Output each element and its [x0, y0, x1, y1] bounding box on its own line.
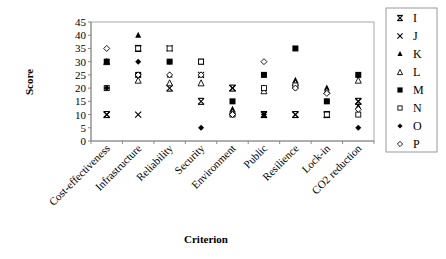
- data-points: [104, 32, 362, 131]
- square-filled-marker-icon: [230, 98, 236, 104]
- y-axis: 051015202530354045: [75, 16, 91, 147]
- y-tick-label: 0: [81, 135, 87, 147]
- y-axis-title: Score: [23, 69, 35, 95]
- diamond-open-marker-icon: [261, 59, 267, 65]
- y-tick-label: 45: [75, 16, 87, 28]
- legend: IJKLMNOP: [386, 8, 437, 152]
- square-open-marker-icon: [324, 112, 329, 117]
- square-open-marker-icon: [136, 46, 141, 51]
- y-tick-label: 25: [75, 69, 87, 81]
- legend-label: L: [413, 65, 420, 79]
- legend-label: M: [413, 83, 424, 97]
- x-marker-icon: [292, 112, 298, 118]
- legend-label: I: [413, 11, 417, 25]
- legend-label: P: [413, 137, 420, 151]
- triangle-filled-marker-icon: [135, 32, 141, 38]
- y-tick-label: 10: [75, 109, 87, 121]
- triangle-open-marker-icon: [198, 80, 204, 86]
- square-filled-marker-icon: [397, 87, 402, 92]
- x-axis-title: Criterion: [184, 233, 228, 245]
- diamond-open-marker-icon: [355, 106, 361, 112]
- y-tick-label: 35: [75, 42, 87, 54]
- x-tick-label: Public: [241, 142, 269, 170]
- x-marker-icon: [104, 112, 110, 118]
- diamond-open-marker-icon: [104, 45, 110, 51]
- y-tick-label: 15: [75, 95, 87, 107]
- square-open-marker-icon: [167, 46, 172, 51]
- y-tick-label: 30: [75, 56, 87, 68]
- square-filled-marker-icon: [261, 72, 267, 78]
- triangle-open-marker-icon: [355, 77, 361, 83]
- y-tick-label: 40: [75, 29, 87, 41]
- x-marker-icon: [230, 85, 236, 91]
- y-tick-label: 5: [81, 122, 87, 134]
- legend-label: J: [413, 29, 418, 43]
- x-axis: Cost-effectivenessInfrastructureReliabil…: [46, 141, 374, 208]
- square-open-marker-icon: [398, 106, 402, 110]
- asterisk-marker-icon: [198, 98, 204, 104]
- legend-label: K: [413, 47, 422, 61]
- x-marker-icon: [135, 112, 141, 118]
- diamond-filled-marker-icon: [135, 59, 141, 65]
- diamond-filled-marker-icon: [198, 125, 204, 131]
- plot-area: [91, 22, 374, 141]
- square-open-marker-icon: [261, 86, 266, 91]
- square-filled-marker-icon: [104, 59, 110, 65]
- square-filled-marker-icon: [292, 45, 298, 51]
- scatter-chart: 051015202530354045 Cost-effectivenessInf…: [0, 0, 446, 259]
- triangle-open-marker-icon: [167, 80, 173, 86]
- diamond-filled-marker-icon: [355, 125, 361, 131]
- square-filled-marker-icon: [355, 72, 361, 78]
- legend-label: O: [413, 119, 422, 133]
- y-tick-label: 20: [75, 82, 87, 94]
- square-open-marker-icon: [199, 59, 204, 64]
- legend-label: N: [413, 101, 422, 115]
